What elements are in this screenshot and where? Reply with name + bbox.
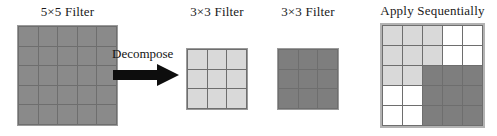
grid-cell: [78, 86, 97, 105]
decompose-annotation: Decompose: [112, 46, 184, 86]
grid-cell: [383, 66, 402, 85]
grid-cell: [463, 106, 482, 125]
grid-cell: [58, 86, 77, 105]
decompose-label: Decompose: [112, 46, 173, 61]
grid-cell: [97, 86, 116, 105]
grid-cell: [423, 26, 442, 45]
grid-cell: [423, 46, 442, 65]
grid-cell: [383, 86, 402, 105]
grid-cell: [299, 70, 318, 89]
grid-cell: [318, 89, 337, 108]
grid-cell: [227, 70, 246, 89]
grid-cell: [383, 26, 402, 45]
grid-cell: [423, 106, 442, 125]
grid-filter-3x3-dark: [277, 48, 339, 110]
grid-cell: [78, 47, 97, 66]
grid-cell: [19, 86, 38, 105]
grid-cell: [403, 46, 422, 65]
grid-cell: [39, 66, 58, 85]
grid-cell: [403, 106, 422, 125]
grid-cell: [208, 89, 227, 108]
grid-cell: [318, 50, 337, 69]
grid-cell: [423, 66, 442, 85]
panel-title-filter-5x5: 5×5 Filter: [41, 4, 95, 20]
grid-cell: [58, 66, 77, 85]
grid-cell: [443, 46, 462, 65]
panel-title-filter-3x3-light: 3×3 Filter: [190, 4, 244, 20]
grid-cell: [78, 66, 97, 85]
grid-apply-sequentially: [380, 23, 485, 128]
grid-cell: [443, 66, 462, 85]
grid-cell: [39, 47, 58, 66]
grid-cell: [208, 50, 227, 69]
arrow-right-icon: [113, 64, 179, 86]
grid-cell: [403, 66, 422, 85]
grid-cell: [299, 50, 318, 69]
panel-filter-5x5: 5×5 Filter: [17, 4, 118, 126]
panel-apply-sequentially: Apply Sequentially: [380, 3, 485, 128]
grid-cell: [19, 47, 38, 66]
grid-cell: [383, 46, 402, 65]
grid-cell: [279, 89, 298, 108]
panel-filter-3x3-dark: 3×3 Filter: [277, 4, 339, 110]
grid-cell: [463, 46, 482, 65]
panel-filter-3x3-light: 3×3 Filter: [186, 4, 248, 110]
grid-cell: [19, 105, 38, 124]
filter-decomposition-figure: 5×5 Filter Decompose 3×3 Filter 3×3 Filt…: [0, 0, 497, 136]
grid-cell: [227, 89, 246, 108]
panel-title-apply-sequentially: Apply Sequentially: [380, 3, 484, 19]
grid-cell: [443, 86, 462, 105]
grid-cell: [58, 27, 77, 46]
grid-cell: [97, 27, 116, 46]
grid-cell: [279, 70, 298, 89]
grid-cell: [463, 86, 482, 105]
grid-cell: [19, 66, 38, 85]
grid-cell: [227, 50, 246, 69]
grid-cell: [188, 50, 207, 69]
grid-cell: [463, 26, 482, 45]
grid-cell: [188, 70, 207, 89]
grid-cell: [97, 105, 116, 124]
grid-cell: [39, 86, 58, 105]
grid-cell: [188, 89, 207, 108]
grid-cell: [39, 105, 58, 124]
grid-filter-5x5: [17, 25, 118, 126]
grid-cell: [318, 70, 337, 89]
grid-cell: [19, 27, 38, 46]
grid-cell: [78, 105, 97, 124]
grid-cell: [39, 27, 58, 46]
grid-cell: [58, 105, 77, 124]
grid-cell: [208, 70, 227, 89]
grid-cell: [443, 26, 462, 45]
grid-cell: [299, 89, 318, 108]
panel-title-filter-3x3-dark: 3×3 Filter: [281, 4, 335, 20]
grid-cell: [279, 50, 298, 69]
grid-cell: [403, 26, 422, 45]
grid-cell: [463, 66, 482, 85]
grid-cell: [78, 27, 97, 46]
grid-cell: [403, 86, 422, 105]
grid-cell: [383, 106, 402, 125]
grid-filter-3x3-light: [186, 48, 248, 110]
grid-cell: [443, 106, 462, 125]
grid-cell: [58, 47, 77, 66]
grid-cell: [423, 86, 442, 105]
